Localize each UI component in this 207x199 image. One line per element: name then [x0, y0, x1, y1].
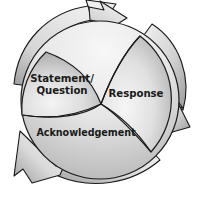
label-acknowledgement: Acknowledgement [37, 127, 136, 138]
label-response: Response [109, 88, 164, 99]
communication-cycle-diagram: Statement/ Question Response Acknowledge… [0, 0, 207, 199]
cycle-diagram-canvas: Statement/ Question Response Acknowledge… [0, 0, 207, 199]
cycle-disc-group [21, 21, 179, 179]
label-statement-question-line1: Statement/ [30, 73, 94, 84]
label-statement-question-line2: Question [36, 85, 87, 96]
